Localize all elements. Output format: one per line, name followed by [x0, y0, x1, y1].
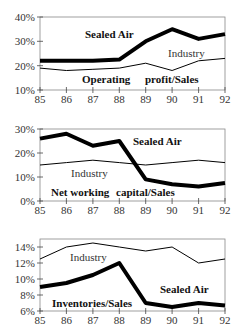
y-tick: 14%: [15, 241, 35, 253]
x-axis-ticks: 85 86 87 88 89 90 91 92: [35, 93, 231, 105]
y-tick: 20%: [15, 147, 35, 159]
y-tick: 8%: [20, 289, 35, 301]
x-tick: 88: [114, 204, 126, 216]
y-tick: 30%: [15, 35, 35, 47]
chart-title: Inventories/Sales: [52, 297, 133, 309]
x-tick: 92: [220, 314, 231, 326]
x-tick: 89: [140, 204, 152, 216]
y-tick: 10%: [15, 273, 35, 285]
chart-title: profit/Sales: [145, 73, 199, 85]
x-tick: 87: [87, 314, 99, 326]
x-tick: 88: [114, 93, 126, 105]
series-label-industry: Industry: [168, 47, 205, 59]
x-tick: 89: [140, 314, 152, 326]
series-industry-line: [40, 243, 225, 263]
chart-title: Net working: [51, 186, 110, 198]
x-tick: 90: [167, 314, 179, 326]
chart-inventories: 14% 12% 10% 8% 6% 85 86 87 88 89 90 91 9…: [15, 239, 231, 326]
y-tick: 30%: [15, 123, 35, 135]
y-axis-ticks: 14% 12% 10% 8% 6%: [15, 241, 35, 317]
x-tick: 92: [220, 204, 231, 216]
x-axis-ticks: 85 86 87 88 89 90 91 92: [35, 204, 231, 216]
x-tick: 86: [61, 204, 73, 216]
x-tick: 91: [193, 93, 204, 105]
y-tick: 10%: [15, 171, 35, 183]
y-tick: 6%: [20, 305, 35, 317]
charts-canvas: 40% 30% 20% 10% 85 86 87 88 89 90 91 92 …: [0, 0, 243, 336]
y-tick: 0%: [20, 195, 35, 207]
series-label-sealed-air: Sealed Air: [133, 135, 182, 147]
y-tick: 20%: [15, 60, 35, 72]
y-tick: 40%: [15, 11, 35, 23]
x-tick: 90: [167, 204, 179, 216]
x-tick: 91: [193, 204, 204, 216]
series-label-industry: Industry: [71, 167, 108, 179]
x-tick: 89: [140, 93, 152, 105]
chart-title: capital/Sales: [116, 186, 175, 198]
y-tick: 12%: [15, 257, 35, 269]
series-label-sealed-air: Sealed Air: [160, 283, 209, 295]
x-tick: 85: [35, 314, 47, 326]
x-tick: 87: [87, 204, 99, 216]
series-label-industry: Industry: [70, 251, 107, 263]
x-tick: 85: [35, 93, 47, 105]
y-axis-ticks: 30% 20% 10% 0%: [15, 123, 35, 207]
y-tick: 10%: [15, 84, 35, 96]
x-tick: 85: [35, 204, 47, 216]
series-label-sealed-air: Sealed Air: [85, 28, 134, 40]
x-tick: 87: [87, 93, 99, 105]
x-tick: 88: [114, 314, 126, 326]
chart-operating-profit: 40% 30% 20% 10% 85 86 87 88 89 90 91 92 …: [15, 11, 231, 105]
x-tick: 86: [61, 314, 73, 326]
y-axis-ticks: 40% 30% 20% 10%: [15, 11, 35, 96]
chart-title: Operating: [82, 73, 131, 85]
x-tick: 86: [61, 93, 73, 105]
x-axis-ticks: 85 86 87 88 89 90 91 92: [35, 314, 231, 326]
chart-net-working-capital: 30% 20% 10% 0% 85 86 87 88 89 90 91 92 S…: [15, 123, 231, 216]
x-tick: 92: [220, 93, 231, 105]
x-tick: 91: [193, 314, 204, 326]
x-tick: 90: [167, 93, 179, 105]
